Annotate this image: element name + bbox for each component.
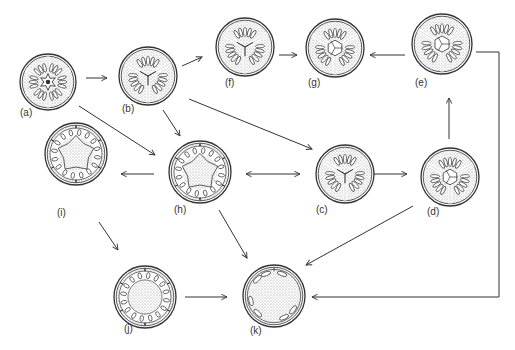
label-e: (e) [415, 78, 427, 88]
label-d: (d) [427, 207, 439, 217]
label-g: (g) [308, 78, 320, 88]
cross-section-k [243, 265, 305, 327]
label-h: (h) [174, 205, 186, 215]
label-k: (k) [250, 326, 262, 336]
cross-sections-layer [20, 14, 479, 328]
cross-section-j [114, 266, 176, 328]
arrow-b-to-f [182, 57, 202, 66]
tomato-cross-section-diagram: (a)(b)(f)(g)(e)(h)(c)(d)(i)(j)(k) [0, 0, 515, 350]
cross-section-c [316, 145, 374, 203]
cross-section-f [216, 18, 274, 76]
cross-section-d [421, 148, 479, 206]
cross-section-a [20, 54, 76, 110]
cross-section-h [169, 141, 231, 203]
cross-section-e [412, 14, 472, 74]
arrow-b-to-h [163, 110, 180, 136]
arrow-i-to-j [99, 222, 118, 250]
label-i: (i) [57, 208, 66, 218]
cross-section-i [45, 123, 107, 185]
cross-section-b [119, 47, 177, 105]
diagram-canvas [0, 0, 515, 350]
label-c: (c) [316, 205, 328, 215]
label-b: (b) [122, 104, 134, 114]
label-a: (a) [20, 108, 32, 118]
label-j: (j) [124, 324, 133, 334]
arrow-h-to-k [219, 210, 247, 258]
cross-section-g [306, 19, 364, 77]
label-f: (f) [225, 78, 234, 88]
